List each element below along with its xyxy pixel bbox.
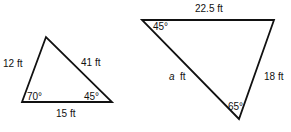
angle-label-45-left: 45° <box>84 91 99 102</box>
side-label-15ft: 15 ft <box>56 108 76 119</box>
angle-label-70: 70° <box>27 91 42 102</box>
side-label-a-var: a <box>169 71 175 82</box>
triangle-1: 12 ft 41 ft 15 ft 70° 45° <box>3 37 112 119</box>
triangle-2-shape <box>142 20 274 119</box>
side-label-41ft: 41 ft <box>81 57 101 68</box>
triangle-2: 22.5 ft 18 ft a ft 45° 65° <box>142 3 284 119</box>
angle-label-65: 65° <box>228 101 243 112</box>
side-label-18ft: 18 ft <box>264 71 284 82</box>
side-label-a-unit: ft <box>180 71 186 82</box>
angle-label-45-right: 45° <box>153 21 168 32</box>
side-label-12ft: 12 ft <box>3 58 23 69</box>
triangles-diagram: 12 ft 41 ft 15 ft 70° 45° 22.5 ft 18 ft … <box>0 0 291 132</box>
side-label-22-5ft: 22.5 ft <box>195 3 223 14</box>
